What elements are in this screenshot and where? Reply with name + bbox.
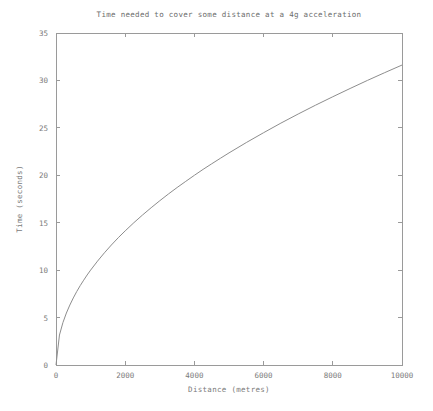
chart-figure: Time needed to cover some distance at a … <box>0 0 433 411</box>
y-tick-label: 35 <box>39 29 48 38</box>
y-tick-label: 25 <box>39 124 48 133</box>
x-tick-label: 2000 <box>116 371 135 380</box>
y-tick-label: 5 <box>43 314 48 323</box>
y-tick-label: 15 <box>39 219 48 228</box>
y-tick-label: 0 <box>43 361 48 370</box>
x-tick-label: 6000 <box>255 371 274 380</box>
chart-title: Time needed to cover some distance at a … <box>97 10 362 19</box>
x-axis-label: Distance (metres) <box>188 385 270 394</box>
x-tick-label: 0 <box>54 371 59 380</box>
y-tick-label: 30 <box>39 76 49 85</box>
y-tick-label: 20 <box>39 171 49 180</box>
x-tick-label: 4000 <box>185 371 204 380</box>
x-tick-label: 10000 <box>391 371 414 380</box>
y-axis-label: Time (seconds) <box>15 165 24 232</box>
y-tick-label: 10 <box>39 266 49 275</box>
figure-background <box>0 0 433 411</box>
x-tick-label: 8000 <box>324 371 343 380</box>
